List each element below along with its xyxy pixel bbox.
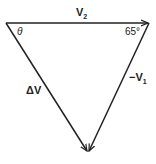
label-delta-v: ΔV [26, 84, 41, 96]
vector-delta-v-line [6, 23, 87, 151]
vector-neg-v1-line [89, 23, 149, 151]
label-neg-v1: −V1 [129, 71, 147, 85]
label-65-degrees: 65° [125, 26, 140, 37]
label-theta: θ [17, 26, 22, 37]
label-v2: V2 [76, 6, 87, 20]
